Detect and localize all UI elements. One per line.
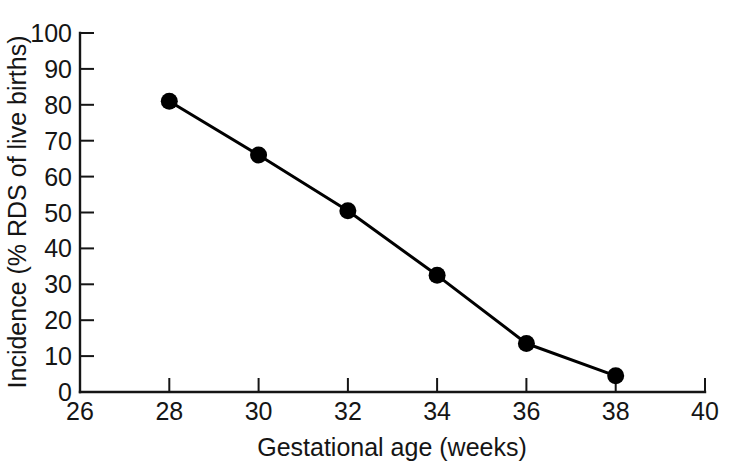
x-tick-label-38: 38 <box>602 397 630 425</box>
y-axis-ticks <box>80 33 94 356</box>
x-tick-label-30: 30 <box>245 397 273 425</box>
data-point-38 <box>607 367 624 384</box>
y-tick-label-20: 20 <box>44 306 72 334</box>
y-tick-label-90: 90 <box>44 55 72 83</box>
y-tick-label-40: 40 <box>44 234 72 262</box>
x-axis-title: Gestational age (weeks) <box>257 433 527 461</box>
y-axis-tick-labels: 100 90 80 70 60 50 40 30 20 10 0 <box>30 19 72 406</box>
y-tick-label-30: 30 <box>44 270 72 298</box>
x-tick-label-34: 34 <box>423 397 451 425</box>
x-tick-label-36: 36 <box>512 397 540 425</box>
x-tick-label-28: 28 <box>155 397 183 425</box>
data-point-28 <box>161 93 178 110</box>
x-tick-label-26: 26 <box>66 397 94 425</box>
y-tick-label-10: 10 <box>44 342 72 370</box>
data-point-34 <box>429 267 446 284</box>
data-point-30 <box>250 147 267 164</box>
x-axis-tick-labels: 26 28 30 32 34 36 38 40 <box>66 397 719 425</box>
line-chart-svg: 100 90 80 70 60 50 40 30 20 10 0 26 28 <box>0 0 732 465</box>
y-tick-label-60: 60 <box>44 163 72 191</box>
y-tick-label-50: 50 <box>44 199 72 227</box>
x-tick-label-32: 32 <box>334 397 362 425</box>
data-point-32 <box>339 202 356 219</box>
x-tick-label-40: 40 <box>691 397 719 425</box>
y-tick-label-100: 100 <box>30 19 72 47</box>
chart-figure: 100 90 80 70 60 50 40 30 20 10 0 26 28 <box>0 0 732 465</box>
series-line-incidence <box>169 101 615 376</box>
y-axis-title: Incidence (% RDS of live births) <box>3 36 31 389</box>
data-point-36 <box>518 335 535 352</box>
y-tick-label-70: 70 <box>44 127 72 155</box>
y-tick-label-80: 80 <box>44 91 72 119</box>
